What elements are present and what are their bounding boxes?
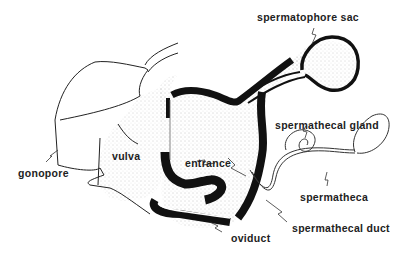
label-spermathecal-duct: spermathecal duct	[292, 223, 390, 234]
label-entrance: entrance	[185, 158, 231, 169]
label-oviduct: oviduct	[231, 233, 270, 244]
label-spermathecal-gland: spermathecal gland	[275, 120, 379, 131]
label-gonopore: gonopore	[18, 168, 69, 179]
label-spermatophore-sac: spermatophore sac	[257, 12, 359, 23]
label-spermatheca: spermatheca	[300, 192, 368, 203]
label-vulva: vulva	[112, 151, 140, 162]
vulva-body	[98, 86, 165, 201]
